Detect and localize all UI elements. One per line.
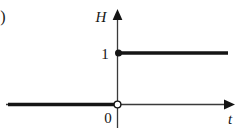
open-circle-marker: [114, 101, 121, 108]
origin-label-zero: 0: [104, 110, 112, 126]
y-tick-label-one: 1: [101, 46, 109, 62]
step-function-plot: H t 1 0 ): [0, 0, 246, 139]
panel-label: ): [0, 8, 5, 26]
h-axis-label: H: [95, 9, 108, 25]
heaviside-step-figure: H t 1 0 ): [0, 0, 246, 139]
filled-dot-marker: [115, 50, 122, 57]
t-axis-arrowhead: [224, 100, 235, 110]
t-axis-label: t: [228, 111, 233, 127]
h-axis-arrowhead: [113, 9, 123, 20]
